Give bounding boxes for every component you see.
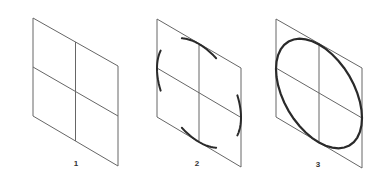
- panel-1: [33, 18, 118, 166]
- panel-label-3: 3: [316, 160, 320, 169]
- panel-2: [157, 19, 241, 167]
- panel-3: [276, 19, 362, 168]
- left-tangent-arc: [157, 51, 161, 91]
- panel-label-1: 1: [74, 159, 78, 168]
- panel-label-2: 2: [195, 159, 199, 168]
